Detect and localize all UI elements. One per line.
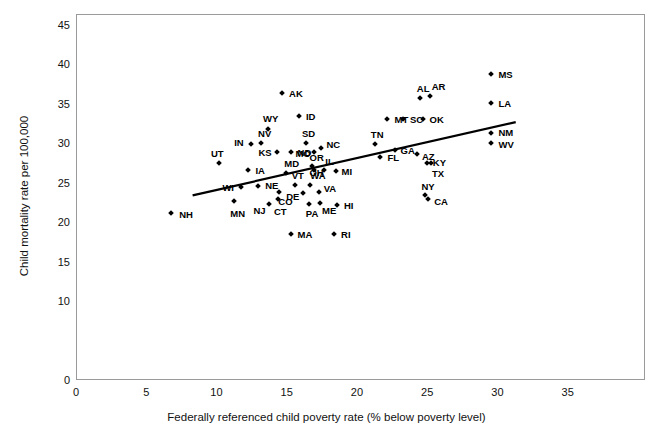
point-label-mo: MO	[295, 149, 310, 159]
data-point-nc	[319, 145, 325, 151]
x-axis-tick-35: 35	[548, 387, 588, 398]
data-point-nv	[258, 140, 264, 146]
data-point-md	[283, 170, 289, 176]
point-label-pa: PA	[306, 209, 319, 219]
y-axis-tick-25: 25	[30, 177, 70, 188]
x-axis-tick-25: 25	[407, 387, 447, 398]
data-point-ar	[427, 93, 433, 99]
x-axis-tick-5: 5	[126, 387, 166, 398]
data-point-mi	[333, 168, 339, 174]
point-label-sd: SD	[302, 129, 315, 139]
point-label-ga: GA	[401, 146, 415, 156]
point-label-ri: RI	[341, 230, 351, 240]
point-label-ar: AR	[432, 82, 446, 92]
point-label-fl: FL	[387, 153, 399, 163]
point-label-ks: KS	[259, 148, 272, 158]
data-point-pa	[306, 201, 312, 207]
point-label-md: MD	[284, 159, 299, 169]
point-label-id: ID	[306, 112, 316, 122]
data-point-nj	[267, 201, 273, 207]
point-label-ne: NE	[265, 181, 278, 191]
point-label-nm: NM	[498, 128, 513, 138]
data-point-mt	[385, 116, 391, 122]
point-label-al: AL	[417, 84, 430, 94]
data-point-tn	[372, 142, 378, 148]
data-point-ks	[274, 149, 280, 155]
data-point-la	[489, 101, 495, 107]
point-label-ak: AK	[289, 89, 303, 99]
point-label-me: ME	[322, 206, 336, 216]
y-axis-tick-0: 0	[30, 375, 70, 386]
point-label-in: IN	[234, 138, 244, 148]
point-label-or: OR	[310, 153, 324, 163]
y-axis-tick-45: 45	[30, 20, 70, 31]
x-axis-tick-layer: 05101520253035	[0, 387, 653, 403]
point-label-mi: MI	[342, 167, 353, 177]
point-label-ma: MA	[298, 230, 313, 240]
point-label-ct: CT	[274, 207, 287, 217]
data-point-ca	[425, 196, 431, 202]
data-point-az	[414, 151, 420, 157]
point-label-nj: NJ	[253, 206, 265, 216]
point-label-wy: WY	[263, 114, 278, 124]
point-label-ky: KY	[433, 158, 446, 168]
data-point-id	[296, 113, 302, 119]
point-label-ny: NY	[421, 182, 434, 192]
x-axis-tick-20: 20	[337, 387, 377, 398]
y-axis-tick-10: 10	[30, 296, 70, 307]
y-axis-tick-layer: 01015202530354045	[20, 0, 70, 434]
point-label-tn: TN	[371, 130, 384, 140]
data-point-ut	[216, 160, 222, 166]
y-axis-tick-15: 15	[30, 256, 70, 267]
point-label-de: DE	[286, 192, 299, 202]
point-label-nc: NC	[326, 140, 340, 150]
y-axis-tick-40: 40	[30, 59, 70, 70]
x-axis-tick-10: 10	[196, 387, 236, 398]
plot-area: NHUTMNWIIAINNENVWYKSCTNJCOMDNDMAIDAKVTSD…	[76, 14, 645, 380]
y-axis-tick-20: 20	[30, 217, 70, 228]
point-label-vt: VT	[292, 171, 304, 181]
point-label-ok: OK	[430, 115, 444, 125]
data-point-ma	[288, 231, 294, 237]
data-point-ms	[489, 71, 495, 77]
data-point-ia	[246, 168, 252, 174]
point-label-la: LA	[498, 99, 511, 109]
data-point-mn	[232, 198, 238, 204]
point-label-va: VA	[324, 184, 337, 194]
point-label-ut: UT	[211, 149, 224, 159]
data-point-ak	[279, 90, 285, 96]
data-point-wi	[239, 184, 245, 190]
data-point-ri	[331, 231, 337, 237]
point-label-il: IL	[325, 157, 333, 167]
data-point-nm	[489, 130, 495, 136]
data-point-ne	[255, 183, 261, 189]
point-label-ca: CA	[434, 197, 448, 207]
data-point-sd	[303, 140, 309, 146]
y-axis-tick-30: 30	[30, 138, 70, 149]
scatter-chart-figure: Child mortality rate per 100,000 0101520…	[0, 0, 653, 434]
data-point-fl	[378, 154, 384, 160]
y-axis-tick-35: 35	[30, 98, 70, 109]
data-point-il	[321, 167, 327, 173]
point-label-wi: WI	[222, 183, 234, 193]
data-point-nh	[168, 210, 174, 216]
point-label-ia: IA	[255, 166, 265, 176]
point-label-wv: WV	[498, 140, 513, 150]
x-axis-tick-15: 15	[267, 387, 307, 398]
x-axis-tick-0: 0	[56, 387, 96, 398]
data-point-va	[316, 190, 322, 196]
data-point-wa	[307, 182, 313, 188]
x-axis-tick-30: 30	[477, 387, 517, 398]
point-label-ms: MS	[498, 70, 512, 80]
point-label-nh: NH	[179, 210, 193, 220]
point-label-hi: HI	[344, 201, 354, 211]
data-point-vt	[292, 182, 298, 188]
data-point-al	[417, 95, 423, 101]
x-axis-label: Federally referenced child poverty rate …	[0, 411, 653, 423]
data-point-nd	[288, 149, 294, 155]
data-point-in	[248, 142, 254, 148]
point-label-mn: MN	[230, 209, 245, 219]
data-point-de	[300, 190, 306, 196]
data-point-co	[276, 189, 282, 195]
data-point-wv	[489, 140, 495, 146]
